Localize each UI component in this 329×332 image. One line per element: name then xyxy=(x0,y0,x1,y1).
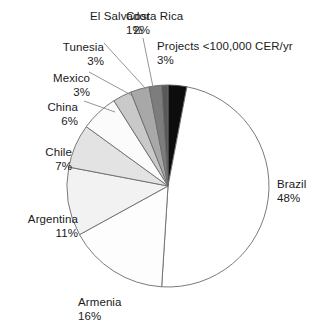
pie-label-china-percent: 6% xyxy=(0,115,78,129)
pie-label-armenia-name: Armenia xyxy=(78,296,154,310)
pie-label-argentina-name: Argentina xyxy=(0,213,78,227)
pie-label-mexico: Mexico 3% xyxy=(4,72,90,99)
pie-slice-group xyxy=(67,85,269,287)
pie-label-mexico-name: Mexico xyxy=(4,72,90,86)
pie-label-costa-rica: Costa Rica 1% xyxy=(126,10,206,37)
pie-chart: El Salvador 2% Costa Rica 1% Projects <1… xyxy=(0,0,329,332)
pie-label-argentina-percent: 11% xyxy=(0,227,78,241)
pie-label-chile-percent: 7% xyxy=(0,160,72,174)
leader-line-costa-rica xyxy=(143,38,153,87)
pie-label-armenia-percent: 16% xyxy=(78,310,154,324)
pie-label-projects: Projects <100,000 CER/yr 3% xyxy=(157,40,327,67)
leader-line-el-salvador xyxy=(104,43,146,89)
pie-label-projects-percent: 3% xyxy=(157,54,327,68)
leader-line-tunesia xyxy=(89,72,133,96)
pie-label-argentina: Argentina 11% xyxy=(0,213,78,240)
pie-label-tunesia-name: Tunesia xyxy=(18,41,104,55)
pie-label-chile: Chile 7% xyxy=(0,146,72,173)
pie-label-china-name: China xyxy=(0,101,78,115)
pie-label-mexico-percent: 3% xyxy=(4,86,90,100)
pie-label-tunesia: Tunesia 3% xyxy=(18,41,104,68)
pie-label-armenia: Armenia 16% xyxy=(78,296,154,323)
pie-label-brazil: Brazil 48% xyxy=(277,178,329,205)
pie-label-tunesia-percent: 3% xyxy=(18,55,104,69)
pie-label-costa-rica-percent: 1% xyxy=(126,24,206,38)
pie-label-projects-name: Projects <100,000 CER/yr xyxy=(157,40,327,54)
pie-label-brazil-percent: 48% xyxy=(277,192,329,206)
pie-label-china: China 6% xyxy=(0,101,78,128)
pie-label-brazil-name: Brazil xyxy=(277,178,329,192)
pie-label-costa-rica-name: Costa Rica xyxy=(126,10,206,24)
pie-label-chile-name: Chile xyxy=(0,146,72,160)
